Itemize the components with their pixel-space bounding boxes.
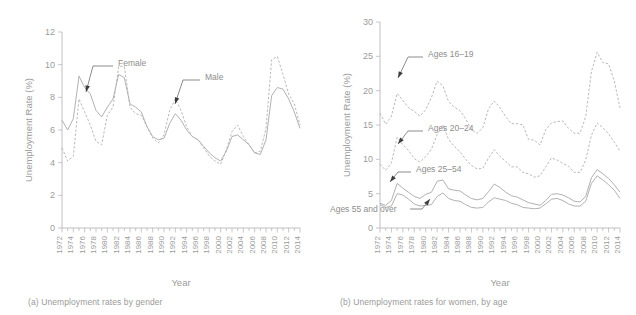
- x-tick-label: 1972: [55, 235, 64, 253]
- x-tick-label: 1992: [168, 235, 177, 253]
- x-tick-label: 2014: [293, 235, 302, 253]
- annotation-label: Ages 55 and over: [330, 204, 397, 214]
- x-tick-label: 1986: [134, 235, 143, 253]
- x-tick-label: 2012: [602, 235, 611, 253]
- x-tick-label: 2004: [556, 235, 565, 253]
- x-tick-label: 2002: [225, 235, 234, 253]
- x-tick-label: 2000: [533, 235, 542, 253]
- annotation-label: Ages 16–19: [428, 49, 474, 59]
- series-line-2: [380, 170, 620, 206]
- series-line-0: [62, 74, 300, 161]
- annotation-arrowhead: [398, 71, 403, 78]
- annotation-leader-line: [175, 80, 200, 104]
- annotation-arrowhead: [390, 175, 396, 182]
- panel-unemployment-women-by-age: 0510152025301972197419761978198019821984…: [318, 0, 636, 315]
- x-tick-label: 2006: [248, 235, 257, 253]
- x-tick-label: 2002: [544, 235, 553, 253]
- x-tick-label: 1988: [464, 235, 473, 253]
- x-tick-label: 1988: [146, 235, 155, 253]
- x-tick-label: 1994: [180, 235, 189, 253]
- x-tick-label: 1974: [384, 235, 393, 253]
- x-tick-label: 1974: [66, 235, 75, 253]
- x-tick-label: 1982: [430, 235, 439, 253]
- series-line-1: [62, 57, 300, 165]
- y-tick-label: 20: [363, 86, 373, 96]
- x-tick-label: 1994: [499, 235, 508, 253]
- y-axis-title: Unemployment Rate (%): [341, 73, 352, 177]
- y-tick-label: 5: [368, 189, 373, 199]
- x-tick-label: 1992: [487, 235, 496, 253]
- x-tick-label: 2004: [236, 235, 245, 253]
- x-axis-title: Year: [490, 277, 509, 288]
- x-tick-label: 1984: [123, 235, 132, 253]
- x-tick-label: 1982: [112, 235, 121, 253]
- x-tick-label: 1972: [373, 235, 382, 253]
- x-tick-label: 2012: [282, 235, 291, 253]
- x-tick-label: 2006: [567, 235, 576, 253]
- x-tick-label: 2010: [270, 235, 279, 253]
- annotation-label: Ages 20–24: [428, 123, 474, 133]
- x-tick-label: 2014: [613, 235, 622, 253]
- x-tick-label: 1984: [442, 235, 451, 253]
- x-tick-label: 1990: [157, 235, 166, 253]
- x-tick-label: 1976: [78, 235, 87, 253]
- panel-unemployment-by-gender: 0246810121972197419761978198019821984198…: [0, 0, 318, 315]
- x-tick-label: 1996: [191, 235, 200, 253]
- x-tick-label: 1978: [407, 235, 416, 253]
- chart-unemployment-by-gender: 0246810121972197419761978198019821984198…: [0, 0, 318, 300]
- annotation-leader-line: [398, 131, 423, 144]
- x-tick-label: 1978: [89, 235, 98, 253]
- y-tick-label: 15: [363, 120, 373, 130]
- panel-b-caption: (b) Unemployment rates for women, by age: [340, 297, 507, 307]
- y-tick-label: 2: [50, 190, 55, 200]
- annotation-leader-line: [86, 66, 113, 92]
- x-tick-label: 1990: [476, 235, 485, 253]
- x-tick-label: 1998: [202, 235, 211, 253]
- x-tick-label: 2010: [590, 235, 599, 253]
- y-tick-label: 10: [45, 60, 55, 70]
- y-tick-label: 10: [363, 154, 373, 164]
- y-tick-label: 12: [45, 27, 55, 37]
- panel-a-caption: (a) Unemployment rates by gender: [28, 297, 163, 307]
- x-tick-label: 2000: [214, 235, 223, 253]
- annotation-label: Female: [118, 58, 147, 68]
- y-tick-label: 4: [50, 158, 55, 168]
- annotation-label: Male: [205, 72, 224, 82]
- y-tick-label: 30: [363, 17, 373, 27]
- y-tick-label: 0: [368, 223, 373, 233]
- x-tick-label: 1976: [396, 235, 405, 253]
- y-tick-label: 0: [50, 223, 55, 233]
- x-tick-label: 1998: [522, 235, 531, 253]
- y-tick-label: 25: [363, 51, 373, 61]
- x-tick-label: 1980: [419, 235, 428, 253]
- chart-unemployment-women-by-age: 0510152025301972197419761978198019821984…: [318, 0, 636, 300]
- x-tick-label: 1996: [510, 235, 519, 253]
- x-tick-label: 1980: [100, 235, 109, 253]
- y-tick-label: 8: [50, 92, 55, 102]
- figure-container: 0246810121972197419761978198019821984198…: [0, 0, 636, 315]
- annotation-leader-line: [398, 57, 423, 78]
- series-line-3: [380, 176, 620, 209]
- y-tick-label: 6: [50, 125, 55, 135]
- x-tick-label: 1986: [453, 235, 462, 253]
- annotation-label: Ages 25–54: [416, 164, 462, 174]
- x-axis-title: Year: [171, 277, 190, 288]
- y-axis-title: Unemployment Rate (%): [23, 78, 34, 182]
- x-tick-label: 2008: [259, 235, 268, 253]
- x-tick-label: 2008: [579, 235, 588, 253]
